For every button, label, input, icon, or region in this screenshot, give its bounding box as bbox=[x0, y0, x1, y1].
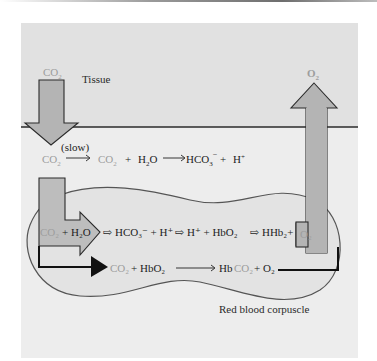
svg-text:CO₂: CO₂ bbox=[110, 262, 129, 274]
svg-text:⇨ HHb₂+: ⇨ HHb₂+ bbox=[250, 226, 293, 238]
svg-text:CO2: CO2 bbox=[42, 153, 61, 168]
co2-tissue-label: CO2 bbox=[43, 66, 62, 81]
svg-text:+ H₂O: + H₂O bbox=[62, 226, 91, 238]
cell-reaction-1: CO₂ + H₂O ⇨ HCO₃⁻ + H⁺ ⇨ H⁺ + HbO₂ ⇨ HHb… bbox=[40, 226, 312, 240]
svg-text:H2O: H2O bbox=[138, 153, 157, 168]
co2-transport-diagram: CO2 Tissue O2 (slow) CO2 CO2 + H2O HCO3−… bbox=[0, 0, 377, 361]
co2-down-arrow bbox=[25, 80, 78, 145]
svg-text:CO₂: CO₂ bbox=[40, 226, 59, 238]
svg-text:+ O₂: + O₂ bbox=[254, 262, 275, 274]
svg-text:O₂: O₂ bbox=[300, 228, 312, 240]
o2-out-label: O2 bbox=[307, 67, 320, 82]
slow-condition-label: (slow) bbox=[61, 141, 89, 154]
tissue-label: Tissue bbox=[82, 73, 110, 85]
svg-text:CO2: CO2 bbox=[98, 153, 117, 168]
svg-text:Hb: Hb bbox=[219, 262, 233, 274]
svg-text:+: + bbox=[220, 153, 226, 165]
svg-text:H+: H+ bbox=[233, 153, 245, 165]
svg-text:⇨ HCO₃⁻ + H⁺: ⇨ HCO₃⁻ + H⁺ bbox=[103, 226, 173, 238]
svg-text:+: + bbox=[125, 153, 131, 165]
svg-text:+ HbO₂: + HbO₂ bbox=[131, 262, 165, 274]
svg-text:⇨ H⁺ + HbO₂: ⇨ H⁺ + HbO₂ bbox=[175, 226, 238, 238]
red-blood-corpuscle-label: Red blood corpuscle bbox=[219, 303, 310, 315]
svg-text:CO₂: CO₂ bbox=[234, 262, 253, 274]
svg-text:HCO3−: HCO3− bbox=[186, 150, 218, 168]
